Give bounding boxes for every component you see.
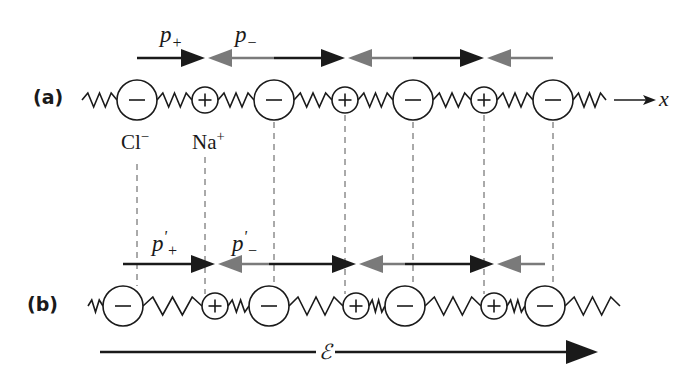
- ion-chain-b: [88, 286, 620, 326]
- x-axis-label: x: [659, 86, 669, 112]
- spring: [82, 93, 117, 107]
- chloride-ion: [249, 286, 289, 326]
- spring: [358, 93, 393, 107]
- panel-label-a: (a): [33, 86, 63, 108]
- chloride-ion: [254, 80, 294, 120]
- sodium-ion: [202, 293, 228, 319]
- sodium-ion: [343, 293, 369, 319]
- dipole-arrowhead-right: [181, 49, 205, 67]
- dipole-arrowhead-right: [460, 49, 484, 67]
- dipole-arrowhead-left: [497, 255, 521, 273]
- spring: [565, 297, 620, 315]
- dipole-label-p-plus: p+: [160, 22, 182, 52]
- spring: [157, 93, 192, 107]
- dipole-label-p-prime-plus: p'+: [152, 228, 178, 260]
- spring: [425, 297, 481, 315]
- dipole-arrows-b: [123, 255, 545, 273]
- spring: [507, 300, 525, 312]
- electric-field-label: ℰ: [316, 340, 335, 365]
- dipole-arrowhead-right: [191, 255, 215, 273]
- dipole-arrowhead-left: [359, 255, 383, 273]
- chloride-ion: [385, 286, 425, 326]
- sodium-ion: [192, 87, 218, 113]
- spring: [218, 93, 254, 107]
- chloride-ion: [393, 80, 433, 120]
- sodium-ion: [471, 87, 497, 113]
- ionic-polarization-diagram: [0, 0, 696, 374]
- spring: [369, 300, 385, 312]
- spring: [433, 93, 471, 107]
- panel-label-b: (b): [27, 293, 58, 315]
- spring: [573, 93, 606, 107]
- dipole-arrowhead-left: [348, 49, 372, 67]
- dipole-arrowhead-right: [470, 255, 494, 273]
- dipole-arrowhead-right: [332, 255, 356, 273]
- electric-field-arrow: [100, 340, 598, 364]
- spring: [143, 297, 202, 315]
- ion-chain-a: [82, 80, 606, 120]
- dipole-arrowhead-left: [208, 49, 232, 67]
- chloride-ion: [525, 286, 565, 326]
- dipole-arrowhead-left: [487, 49, 511, 67]
- chloride-ion: [117, 80, 157, 120]
- x-axis-arrow: [614, 95, 656, 105]
- dipole-arrows-a: [137, 49, 553, 67]
- chloride-ion: [103, 286, 143, 326]
- spring: [294, 93, 332, 107]
- spring: [289, 297, 343, 315]
- chloride-label: Cl−: [121, 128, 149, 155]
- spring: [88, 300, 103, 312]
- dipole-label-p-prime-minus: p'−: [232, 228, 258, 260]
- spring: [497, 93, 533, 107]
- dipole-label-p-minus: p−: [235, 22, 257, 52]
- dipole-arrowhead-right: [321, 49, 345, 67]
- chloride-ion: [533, 80, 573, 120]
- sodium-ion: [332, 87, 358, 113]
- spring: [228, 300, 249, 312]
- sodium-label: Na+: [192, 128, 225, 155]
- sodium-ion: [481, 293, 507, 319]
